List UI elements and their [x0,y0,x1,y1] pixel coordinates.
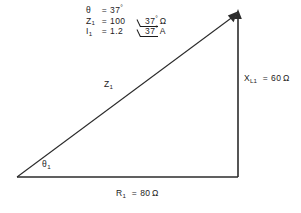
current-magnitude: 1.2 [110,25,136,37]
angle-label: θ1 [42,158,51,170]
current-symbol: I1 [86,25,99,37]
resistance-label: R1 =80Ω [116,187,159,199]
current-equals: = [99,25,110,37]
parameter-row-impedance: Z1 = 100 37° Ω [86,15,167,26]
parameter-row-theta: θ = 37° [86,4,167,15]
reactance-label: XL1 =60Ω [244,72,290,84]
current-angle-notation: 37° [140,25,158,37]
current-unit: A [160,25,166,37]
theta-degree-symbol: ° [120,4,123,11]
parameter-list: θ = 37° Z1 = 100 37° Ω I1 = 1.2 37° A [86,4,167,36]
impedance-hypotenuse-line [17,16,234,177]
parameter-row-current: I1 = 1.2 37° A [86,25,167,36]
impedance-triangle-diagram: θ = 37° Z1 = 100 37° Ω I1 = 1.2 37° A [0,0,301,213]
hypotenuse-label: Z1 [104,78,113,90]
